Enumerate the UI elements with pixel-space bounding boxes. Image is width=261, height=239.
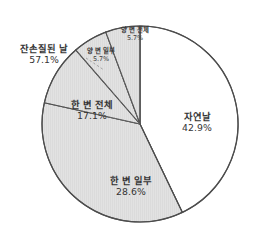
pie-label-two-side-part-value: 5.7% (78, 56, 124, 64)
pie-label-two-side-full-value: 5.7% (112, 35, 158, 43)
pie-label-retouched-group: 잔손질된 날 57.1% (2, 44, 86, 66)
pie-label-retouched-group-value: 57.1% (2, 55, 86, 66)
pie-label-one-side-full: 한 변 전체 17.1% (56, 100, 128, 122)
pie-label-natural: 자연날 42.9% (166, 112, 228, 134)
pie-label-natural-value: 42.9% (166, 123, 228, 134)
pie-chart: 잔손질된 날 57.1% 자연날 42.9% 한 변 일부 28.6% 한 변 … (0, 0, 261, 239)
pie-label-one-side-full-value: 17.1% (56, 111, 128, 122)
pie-label-one-side-part: 한 변 일부 28.6% (96, 176, 166, 198)
pie-label-two-side-full: 양 변 전체 5.7% (112, 27, 158, 42)
pie-label-two-side-part: 양 변 일부 5.7% (78, 48, 124, 63)
pie-label-one-side-part-value: 28.6% (96, 187, 166, 198)
